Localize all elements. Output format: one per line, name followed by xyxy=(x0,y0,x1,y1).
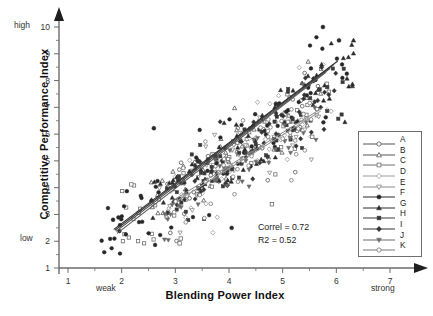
data-point-H xyxy=(184,210,187,213)
data-point-J xyxy=(247,168,251,172)
data-point-J xyxy=(218,165,222,169)
data-point-H xyxy=(309,97,312,100)
data-point-B xyxy=(306,59,310,63)
data-point-J xyxy=(288,151,292,155)
legend-item-J[interactable]: J xyxy=(361,230,419,241)
data-point-G xyxy=(291,88,295,92)
legend-label-J: J xyxy=(397,231,404,241)
y-axis-title: Competitive Performance Index xyxy=(38,24,50,244)
legend-marker-circle-icon xyxy=(361,188,397,198)
data-point-C xyxy=(274,173,277,176)
data-point-B xyxy=(160,178,164,182)
data-point-E xyxy=(303,128,307,132)
data-point-C xyxy=(142,242,145,245)
data-point-J xyxy=(314,138,318,142)
data-point-H xyxy=(340,113,343,116)
data-point-K xyxy=(204,140,208,144)
data-point-K xyxy=(296,127,300,131)
data-point-H xyxy=(341,81,344,84)
data-point-K xyxy=(241,119,245,123)
data-point-D xyxy=(255,100,259,105)
data-point-H xyxy=(342,67,345,70)
data-point-C xyxy=(152,238,155,241)
data-point-F xyxy=(108,237,112,241)
data-point-K xyxy=(290,178,294,182)
data-point-F xyxy=(207,213,211,217)
legend-item-H[interactable]: H xyxy=(361,209,419,220)
data-point-I xyxy=(322,90,326,95)
data-point-I xyxy=(251,177,255,182)
data-point-G xyxy=(234,123,238,127)
data-point-B xyxy=(232,106,236,110)
data-point-D xyxy=(285,157,289,162)
data-point-K xyxy=(174,200,178,204)
legend-item-I[interactable]: I xyxy=(361,220,419,231)
data-point-G xyxy=(347,84,351,88)
x-tick-label-1: 1 xyxy=(66,276,71,286)
legend-item-C[interactable]: C xyxy=(361,156,419,167)
data-point-F xyxy=(158,233,162,237)
data-point-H xyxy=(221,185,224,188)
data-point-outlier-F xyxy=(337,38,341,42)
legend-item-F[interactable]: F xyxy=(361,188,419,199)
legend-marker-triangle-down-icon xyxy=(361,231,397,241)
y-tick-label-1: 1 xyxy=(45,263,50,273)
legend-label-A: A xyxy=(397,135,405,145)
data-point-H xyxy=(326,86,329,89)
data-point-outlier-F xyxy=(152,126,156,130)
data-point-G xyxy=(321,98,325,102)
data-point-A xyxy=(168,231,172,235)
legend-item-E[interactable]: E xyxy=(361,177,419,188)
legend-marker-triangle-icon xyxy=(361,146,397,156)
data-point-A xyxy=(293,170,297,174)
data-point-A xyxy=(300,104,304,108)
data-point-G xyxy=(343,120,347,124)
trend-line-A xyxy=(117,73,325,234)
legend-item-A[interactable]: A xyxy=(361,135,419,146)
data-point-F xyxy=(309,67,313,71)
data-point-A xyxy=(179,161,183,165)
data-point-D xyxy=(277,93,281,98)
data-point-C xyxy=(227,157,230,160)
data-point-G xyxy=(345,76,349,80)
data-point-E xyxy=(309,158,313,162)
legend-label-C: C xyxy=(397,156,406,166)
x-axis-high-word: strong xyxy=(371,283,395,293)
data-point-F xyxy=(120,214,124,218)
x-axis-low-word: weak xyxy=(96,283,116,293)
data-point-E xyxy=(212,133,216,137)
data-point-F xyxy=(118,252,122,256)
data-point-A xyxy=(266,178,270,182)
data-point-H xyxy=(291,118,294,121)
data-point-B xyxy=(202,198,206,202)
data-point-D xyxy=(297,65,301,70)
data-point-K xyxy=(293,139,297,143)
data-point-D xyxy=(215,215,219,220)
data-point-K xyxy=(281,137,285,141)
legend-item-K[interactable]: K xyxy=(361,241,419,252)
y-axis-high-word: high xyxy=(14,20,30,30)
data-point-F xyxy=(276,124,280,128)
x-tick-label-6: 6 xyxy=(334,276,339,286)
data-point-G xyxy=(241,168,245,172)
data-point-F xyxy=(250,145,254,149)
data-point-G xyxy=(151,216,155,220)
trend-line-B xyxy=(116,69,330,232)
legend-label-K: K xyxy=(397,241,405,251)
data-point-B xyxy=(171,169,175,173)
data-point-J xyxy=(247,185,251,189)
data-point-F xyxy=(297,100,301,104)
data-point-F xyxy=(110,246,114,250)
data-point-G xyxy=(346,55,350,59)
data-point-C xyxy=(121,189,124,192)
data-point-F xyxy=(341,76,345,80)
data-point-K xyxy=(231,175,235,179)
data-point-C xyxy=(210,185,213,188)
legend-item-G[interactable]: G xyxy=(361,199,419,210)
data-point-F xyxy=(124,232,128,236)
data-point-outlier-G xyxy=(351,38,355,42)
data-point-K xyxy=(209,202,213,206)
data-point-C xyxy=(279,146,282,149)
legend-item-B[interactable]: B xyxy=(361,146,419,157)
legend-item-D[interactable]: D xyxy=(361,167,419,178)
